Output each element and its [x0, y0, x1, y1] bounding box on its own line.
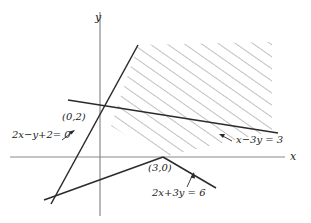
equation-label-2x-minus-y-plus-2: 2x−y+2= 0 [12, 130, 71, 140]
y-axis-label: y [95, 12, 101, 23]
inequality-region-figure: y x (0,2) (3,0) 2x−y+2= 0 x−3y = 3 2x+3y… [0, 0, 311, 223]
equation-label-2x-plus-3y: 2x+3y = 6 [152, 188, 206, 198]
point-label-0-2: (0,2) [62, 112, 86, 122]
leader-arrow-2x-plus-3y [187, 172, 195, 187]
line-2x-plus-3y [44, 157, 163, 200]
point-label-3-0: (3,0) [148, 163, 172, 173]
x-axis-label: x [290, 151, 296, 162]
equation-label-x-minus-3y: x−3y = 3 [236, 135, 283, 145]
